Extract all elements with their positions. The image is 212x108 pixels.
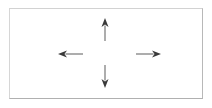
arrow-diagram-canvas [0,0,212,108]
figure-root [0,0,212,108]
arrow-right [136,51,161,58]
arrow-down [102,65,109,88]
arrow-left [58,51,83,58]
arrow-up [102,18,109,41]
